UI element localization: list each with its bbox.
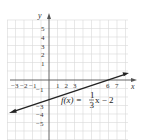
- svg-text:2: 2: [41, 51, 45, 59]
- svg-text:3: 3: [73, 82, 77, 90]
- y-tick-labels: 5 4 3 2 1 −1 −3 −4 −5: [36, 25, 45, 128]
- x-axis-label: x: [130, 82, 135, 91]
- svg-text:5: 5: [41, 25, 45, 33]
- svg-text:7: 7: [115, 82, 119, 90]
- function-graph: y x −3 −2 −1 1 2 3 6 7 5 4 3 2 1 −1 −3 −…: [0, 0, 147, 140]
- svg-text:4: 4: [41, 34, 45, 42]
- svg-text:1: 1: [41, 60, 45, 68]
- x-tick-labels: −3 −2 −1 1 2 3 6 7: [11, 82, 119, 90]
- svg-text:6: 6: [106, 82, 110, 90]
- svg-text:−3: −3: [11, 82, 19, 90]
- svg-text:3: 3: [41, 43, 45, 51]
- svg-text:1: 1: [90, 90, 95, 100]
- y-axis-arrow-icon: [47, 13, 51, 19]
- svg-text:x − 2: x − 2: [95, 95, 114, 105]
- svg-text:3: 3: [90, 100, 95, 110]
- svg-text:−2: −2: [20, 82, 28, 90]
- svg-text:−1: −1: [36, 86, 44, 94]
- svg-text:f(x) =: f(x) =: [61, 95, 82, 105]
- svg-text:−4: −4: [36, 111, 44, 119]
- svg-text:−5: −5: [36, 120, 44, 128]
- svg-text:2: 2: [65, 82, 69, 90]
- svg-text:1: 1: [56, 82, 60, 90]
- line-arrow-left-icon: [9, 109, 17, 113]
- y-axis-label: y: [37, 11, 42, 20]
